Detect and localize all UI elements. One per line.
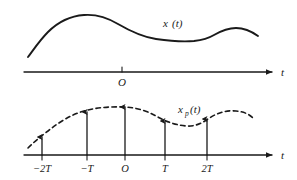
sampled-signal-subscript: p (184, 109, 189, 118)
sampled-signal-envelope (28, 107, 253, 148)
figure-root: O x (t) t −2T −T O T 2T (0, 0, 297, 180)
sampled-signal-arg: (t) (190, 103, 201, 116)
top-origin-label: O (118, 76, 126, 88)
top-signal-arg: (t) (172, 17, 183, 30)
bottom-tick-label-minus-T: −T (81, 163, 95, 174)
bottom-tick-label-origin: O (121, 163, 129, 174)
continuous-signal-panel: O x (t) t (24, 15, 285, 88)
sampled-signal-panel: −2T −T O T 2T x p (t) t (24, 103, 285, 174)
bottom-tick-label-minus-2T: −2T (33, 163, 52, 174)
top-axis-label: t (281, 66, 285, 78)
bottom-axis-label: t (281, 149, 285, 161)
bottom-tick-label-T: T (162, 163, 169, 174)
signal-sampling-figure: O x (t) t −2T −T O T 2T (0, 0, 297, 180)
bottom-tick-label-2T: 2T (201, 163, 213, 174)
top-signal-label: x (162, 17, 168, 29)
continuous-signal-curve (28, 15, 258, 57)
sampled-signal-label: x (177, 103, 183, 115)
